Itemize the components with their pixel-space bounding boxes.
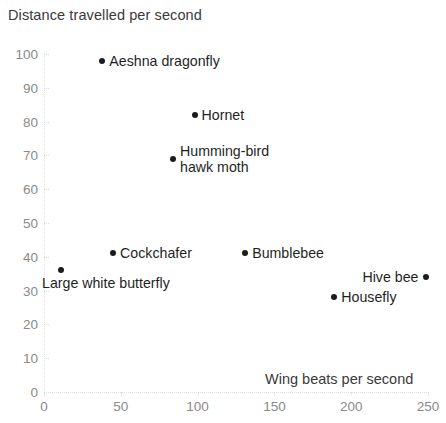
data-point bbox=[242, 250, 248, 256]
data-point bbox=[192, 112, 198, 118]
x-axis-tick-mark bbox=[274, 392, 275, 396]
y-axis-tick-label: 70 bbox=[4, 148, 38, 163]
y-axis-tick-label: 20 bbox=[4, 317, 38, 332]
y-axis-tick-label: 80 bbox=[4, 114, 38, 129]
data-point bbox=[99, 58, 105, 64]
data-point bbox=[58, 267, 64, 273]
data-point bbox=[170, 156, 176, 162]
x-axis-line bbox=[44, 392, 429, 393]
data-point-label: Aeshna dragonfly bbox=[109, 53, 219, 69]
x-axis-tick-label: 250 bbox=[417, 399, 440, 414]
y-axis-tick-label: 90 bbox=[4, 80, 38, 95]
y-axis-tick-label: 40 bbox=[4, 249, 38, 264]
data-point-label: Hornet bbox=[202, 107, 245, 123]
y-axis-tick-label: 30 bbox=[4, 283, 38, 298]
x-axis-label: Wing beats per second bbox=[265, 371, 413, 387]
x-axis-tick-mark bbox=[351, 392, 352, 396]
data-point-label: Bumblebee bbox=[252, 245, 324, 261]
data-point bbox=[423, 274, 429, 280]
y-axis-tick-label: 0 bbox=[4, 385, 38, 400]
x-axis-tick-label: 150 bbox=[263, 399, 286, 414]
x-axis-tick-mark bbox=[121, 392, 122, 396]
plot-area bbox=[44, 54, 428, 392]
data-point-label: Hive bee bbox=[362, 269, 418, 285]
y-axis-tick-label: 60 bbox=[4, 182, 38, 197]
data-point-label: Large white butterfly bbox=[42, 275, 170, 291]
data-point-label: Housefly bbox=[341, 289, 396, 305]
data-point-label: Cockchafer bbox=[120, 245, 192, 261]
y-axis-tick-label: 10 bbox=[4, 351, 38, 366]
y-axis-tick-label: 100 bbox=[4, 47, 38, 62]
x-axis-tick-mark bbox=[198, 392, 199, 396]
x-axis-tick-mark bbox=[44, 392, 45, 396]
data-point-label: Humming-bird hawk moth bbox=[180, 143, 269, 175]
x-axis-tick-label: 200 bbox=[340, 399, 363, 414]
data-point bbox=[331, 294, 337, 300]
x-axis-tick-mark bbox=[428, 392, 429, 396]
x-axis-tick-label: 100 bbox=[186, 399, 209, 414]
x-axis-tick-label: 0 bbox=[40, 399, 48, 414]
x-axis-tick-label: 50 bbox=[113, 399, 128, 414]
y-axis-tick-label: 50 bbox=[4, 216, 38, 231]
data-point bbox=[110, 250, 116, 256]
scatter-chart: Distance travelled per second 0102030405… bbox=[0, 0, 446, 423]
y-axis-ticks: 0102030405060708090100 bbox=[0, 0, 38, 423]
